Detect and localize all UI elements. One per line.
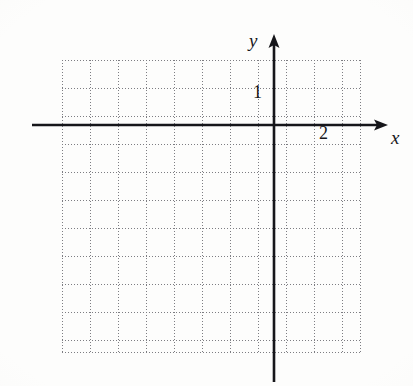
x-axis-arrowhead — [374, 120, 388, 131]
grid-line-horizontal — [62, 312, 360, 313]
grid-line-vertical — [62, 60, 63, 352]
grid-line-vertical — [202, 60, 203, 352]
y-axis-label: y — [249, 31, 257, 50]
paper-texture — [0, 0, 413, 386]
grid-line-horizontal — [62, 88, 360, 89]
axes-layer — [0, 0, 413, 386]
x-axis-label: x — [391, 128, 399, 147]
grid-line-vertical — [90, 60, 91, 352]
grid-line-horizontal — [62, 284, 360, 285]
grid-line-vertical — [286, 60, 287, 352]
grid-line-vertical — [360, 60, 361, 352]
grid-horizontal-lines — [62, 60, 360, 352]
grid-line-vertical — [342, 60, 343, 352]
grid-vertical-lines — [62, 60, 360, 352]
grid-line-vertical — [258, 60, 259, 352]
grid-line-vertical — [146, 60, 147, 352]
y-tick-label-1: 1 — [253, 83, 262, 101]
grid-line-horizontal — [62, 60, 360, 61]
grid-line-horizontal — [62, 228, 360, 229]
coordinate-plane-figure: y x 1 2 — [0, 0, 413, 386]
grid-line-vertical — [174, 60, 175, 352]
grid-line-horizontal — [62, 116, 360, 117]
grid-line-horizontal — [62, 200, 360, 201]
grid-line-vertical — [230, 60, 231, 352]
grid-line-vertical — [314, 60, 315, 352]
x-tick-label-2: 2 — [319, 124, 328, 142]
grid-line-horizontal — [62, 172, 360, 173]
grid-line-vertical — [118, 60, 119, 352]
grid-line-horizontal — [62, 352, 360, 353]
grid-line-horizontal — [62, 340, 360, 341]
y-axis-arrowhead — [269, 34, 280, 48]
grid-line-horizontal — [62, 144, 360, 145]
grid-line-horizontal — [62, 256, 360, 257]
